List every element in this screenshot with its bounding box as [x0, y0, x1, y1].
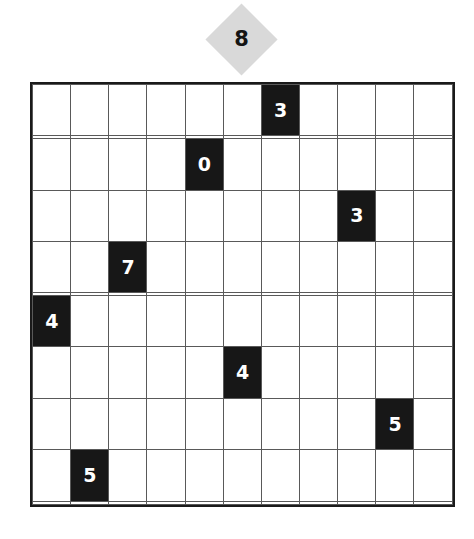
grid-cell-clue[interactable]: 3: [261, 85, 299, 136]
grid-cell-empty[interactable]: [261, 139, 299, 190]
grid-cell-clue[interactable]: 4: [33, 296, 71, 347]
grid-cell-clue[interactable]: 3: [338, 190, 376, 241]
grid-cell-empty[interactable]: [223, 85, 261, 136]
grid-cell-empty[interactable]: [261, 398, 299, 449]
grid-cell-empty[interactable]: [414, 501, 452, 504]
grid-cell-empty[interactable]: [299, 85, 337, 136]
grid-cell-empty[interactable]: [185, 347, 223, 398]
grid-cell-clue[interactable]: 5: [71, 450, 109, 501]
grid-cell-empty[interactable]: [338, 501, 376, 504]
grid-cell-empty[interactable]: [185, 85, 223, 136]
grid-cell-empty[interactable]: [299, 139, 337, 190]
grid-cell-empty[interactable]: [261, 190, 299, 241]
grid-cell-empty[interactable]: [376, 241, 414, 292]
grid-cell-empty[interactable]: [71, 190, 109, 241]
grid-cell-empty[interactable]: [299, 347, 337, 398]
grid-cell-empty[interactable]: [33, 347, 71, 398]
grid-cell-empty[interactable]: [376, 347, 414, 398]
grid-cell-empty[interactable]: [376, 296, 414, 347]
grid-cell-empty[interactable]: [109, 296, 147, 347]
grid-cell-empty[interactable]: [376, 190, 414, 241]
grid-cell-empty[interactable]: [33, 501, 71, 504]
grid-cell-clue[interactable]: 0: [185, 139, 223, 190]
grid-cell-empty[interactable]: [299, 190, 337, 241]
grid-cell-empty[interactable]: [71, 347, 109, 398]
grid-cell-empty[interactable]: [109, 85, 147, 136]
grid-cell-empty[interactable]: [261, 501, 299, 504]
grid-cell-empty[interactable]: [414, 85, 452, 136]
grid-cell-empty[interactable]: [223, 139, 261, 190]
grid-cell-empty[interactable]: [338, 347, 376, 398]
grid-cell-empty[interactable]: [299, 450, 337, 501]
grid-cell-empty[interactable]: [185, 241, 223, 292]
grid-cell-empty[interactable]: [147, 139, 185, 190]
grid-cell-empty[interactable]: [147, 190, 185, 241]
grid-cell-empty[interactable]: [147, 241, 185, 292]
grid-cell-empty[interactable]: [109, 450, 147, 501]
diamond-clue-marker[interactable]: 8: [205, 3, 277, 75]
grid-cell-empty[interactable]: [414, 241, 452, 292]
grid-cell-empty[interactable]: [338, 450, 376, 501]
grid-cell-empty[interactable]: [223, 450, 261, 501]
grid-cell-empty[interactable]: [109, 190, 147, 241]
grid-cell-empty[interactable]: [223, 241, 261, 292]
grid-cell-clue[interactable]: 4: [223, 347, 261, 398]
grid-cell-clue[interactable]: 5: [376, 398, 414, 449]
grid-cell-empty[interactable]: [338, 241, 376, 292]
puzzle-grid[interactable]: 30374455: [30, 82, 455, 507]
grid-cell-empty[interactable]: [414, 398, 452, 449]
grid-cell-empty[interactable]: [147, 398, 185, 449]
grid-cell-empty[interactable]: [147, 296, 185, 347]
grid-cell-empty[interactable]: [71, 85, 109, 136]
grid-cell-empty[interactable]: [223, 296, 261, 347]
grid-cell-empty[interactable]: [33, 450, 71, 501]
grid-cell-empty[interactable]: [147, 347, 185, 398]
grid-cell-empty[interactable]: [261, 241, 299, 292]
grid-cell-empty[interactable]: [299, 296, 337, 347]
grid-cell-empty[interactable]: [338, 139, 376, 190]
grid-cell-clue[interactable]: 7: [109, 241, 147, 292]
grid-cell-empty[interactable]: [147, 85, 185, 136]
grid-cell-empty[interactable]: [185, 450, 223, 501]
grid-cell-empty[interactable]: [147, 450, 185, 501]
grid-cell-empty[interactable]: [33, 241, 71, 292]
grid-cell-empty[interactable]: [223, 398, 261, 449]
grid-cell-empty[interactable]: [299, 398, 337, 449]
grid-cell-empty[interactable]: [414, 139, 452, 190]
grid-cell-empty[interactable]: [414, 296, 452, 347]
grid-cell-empty[interactable]: [338, 85, 376, 136]
grid-cell-empty[interactable]: [71, 296, 109, 347]
grid-cell-empty[interactable]: [261, 450, 299, 501]
grid-cell-empty[interactable]: [376, 450, 414, 501]
grid-cell-empty[interactable]: [109, 501, 147, 504]
grid-cell-empty[interactable]: [185, 190, 223, 241]
grid-cell-empty[interactable]: [185, 296, 223, 347]
grid-cell-empty[interactable]: [109, 347, 147, 398]
grid-cell-empty[interactable]: [338, 398, 376, 449]
grid-cell-empty[interactable]: [71, 501, 109, 504]
grid-cell-empty[interactable]: [299, 241, 337, 292]
grid-cell-empty[interactable]: [71, 398, 109, 449]
grid-cell-empty[interactable]: [109, 398, 147, 449]
grid-cell-empty[interactable]: [338, 296, 376, 347]
grid-cell-empty[interactable]: [33, 190, 71, 241]
grid-cell-empty[interactable]: [33, 139, 71, 190]
grid-cell-empty[interactable]: [414, 450, 452, 501]
grid-cell-empty[interactable]: [261, 347, 299, 398]
grid-cell-empty[interactable]: [414, 190, 452, 241]
grid-cell-empty[interactable]: [223, 190, 261, 241]
grid-cell-empty[interactable]: [376, 85, 414, 136]
grid-cell-empty[interactable]: [71, 139, 109, 190]
grid-cell-empty[interactable]: [299, 501, 337, 504]
grid-cell-empty[interactable]: [223, 501, 261, 504]
grid-cell-empty[interactable]: [147, 501, 185, 504]
grid-cell-empty[interactable]: [261, 296, 299, 347]
grid-cell-empty[interactable]: [109, 139, 147, 190]
grid-cell-empty[interactable]: [376, 139, 414, 190]
grid-cell-empty[interactable]: [185, 398, 223, 449]
grid-cell-empty[interactable]: [33, 398, 71, 449]
grid-cell-empty[interactable]: [71, 241, 109, 292]
grid-cell-empty[interactable]: [33, 85, 71, 136]
grid-cell-empty[interactable]: [376, 501, 414, 504]
grid-cell-empty[interactable]: [185, 501, 223, 504]
